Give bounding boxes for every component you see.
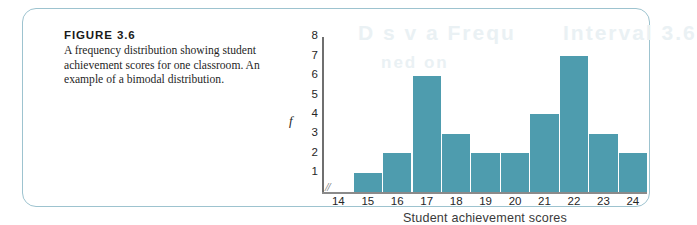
figure-caption-text: A frequency distribution showing student… bbox=[64, 44, 279, 88]
y-axis-tick-1: 1 bbox=[296, 165, 318, 177]
bar-22 bbox=[560, 56, 588, 192]
x-axis-tick-21: 21 bbox=[530, 195, 559, 207]
figure-card: D s v a Frequ Interval 3.6 ned on FIGURE… bbox=[22, 8, 650, 207]
bar-18 bbox=[442, 134, 470, 192]
bar-20 bbox=[501, 153, 529, 192]
bar-16 bbox=[383, 153, 411, 192]
bar-23 bbox=[589, 134, 617, 192]
x-axis-line bbox=[322, 192, 647, 194]
x-axis-tick-18: 18 bbox=[441, 195, 470, 207]
x-axis-tick-23: 23 bbox=[589, 195, 618, 207]
y-axis-tick-2: 2 bbox=[296, 146, 318, 158]
x-axis-tick-14: 14 bbox=[324, 195, 353, 207]
bar-21 bbox=[530, 114, 558, 192]
bar-24 bbox=[619, 153, 647, 192]
x-axis-tick-24: 24 bbox=[618, 195, 647, 207]
plot-area bbox=[324, 37, 648, 192]
figure-caption-block: FIGURE 3.6 A frequency distribution show… bbox=[64, 29, 279, 88]
x-axis-tick-19: 19 bbox=[471, 195, 500, 207]
x-axis-tick-20: 20 bbox=[500, 195, 529, 207]
x-axis-tick-16: 16 bbox=[383, 195, 412, 207]
x-axis-tick-22: 22 bbox=[559, 195, 588, 207]
y-axis-tick-5: 5 bbox=[296, 88, 318, 100]
bar-15 bbox=[354, 173, 382, 192]
y-axis-tick-8: 8 bbox=[296, 29, 318, 41]
x-axis-tick-15: 15 bbox=[353, 195, 382, 207]
x-axis-title: Student achievement scores bbox=[323, 211, 647, 225]
y-axis-tick-6: 6 bbox=[296, 68, 318, 80]
y-axis-tick-7: 7 bbox=[296, 49, 318, 61]
figure-number-label: FIGURE 3.6 bbox=[64, 29, 279, 41]
histogram-chart: f // 87654321 1415161718192021222324 Stu… bbox=[285, 25, 670, 210]
x-axis-tick-17: 17 bbox=[412, 195, 441, 207]
y-axis-tick-3: 3 bbox=[296, 126, 318, 138]
y-axis-tick-labels: 87654321 bbox=[285, 25, 318, 205]
y-axis-tick-4: 4 bbox=[296, 107, 318, 119]
bar-17 bbox=[413, 76, 441, 192]
bar-19 bbox=[471, 153, 499, 192]
